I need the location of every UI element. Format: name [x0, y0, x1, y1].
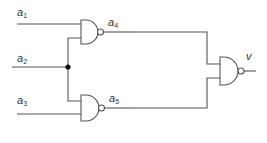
nand-gate-1-bubble	[98, 29, 104, 35]
nand-gate-2-bubble	[99, 105, 105, 111]
nand-gate-3	[220, 57, 238, 85]
wire-a2-to-gate2	[68, 67, 81, 101]
wire-a5-to-gate3	[134, 78, 220, 108]
nand-gate-3-bubble	[238, 68, 244, 74]
label-v: v	[246, 50, 253, 62]
junction-dot	[65, 64, 70, 69]
logic-circuit-diagram: a1 a2 a3 a4 a5 v	[0, 0, 267, 143]
label-a4: a4	[108, 16, 118, 29]
label-a5: a5	[109, 92, 119, 105]
nand-gate-2	[81, 95, 99, 121]
wire-a2-to-gate1	[68, 38, 81, 67]
wire-a4-to-gate3	[134, 32, 220, 64]
label-a2: a2	[17, 52, 27, 65]
nand-gate-1	[81, 20, 98, 44]
label-a1: a1	[17, 6, 27, 19]
label-a3: a3	[17, 94, 27, 107]
